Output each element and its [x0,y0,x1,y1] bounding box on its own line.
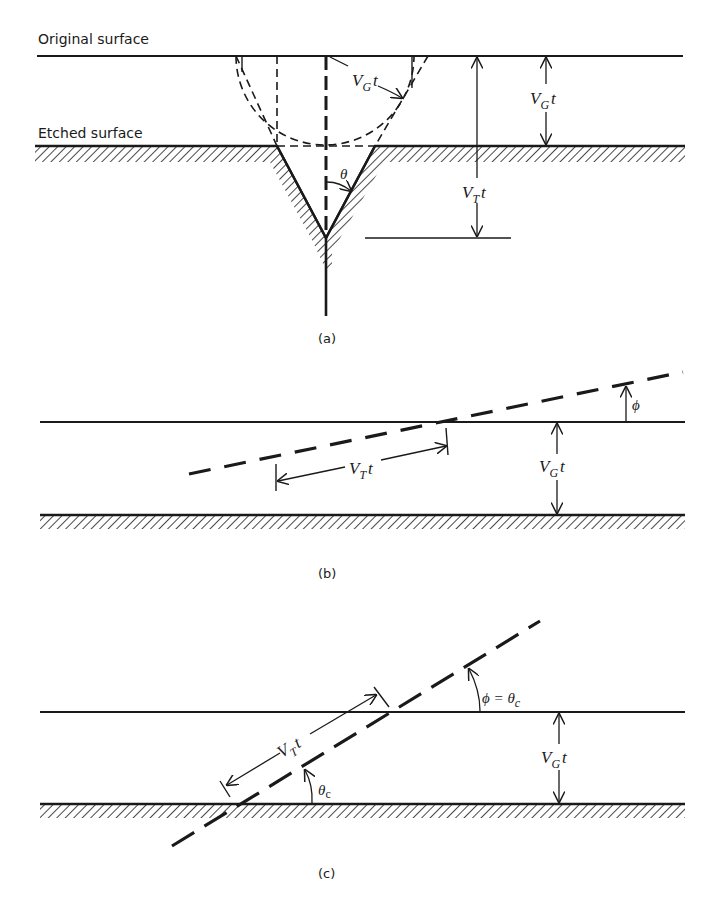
etch-track-diagram: Original surface Etched surface VGt θ VT… [0,0,724,915]
caption-c: (c) [318,866,335,881]
vt-dim-label-c: VTt [274,732,307,765]
vg-dim-label-a: VGt [530,89,557,112]
vg-arc-label: VGt [352,71,379,94]
vg-dim-label-b: VGt [539,457,566,480]
vt-end-tick-right-c [374,687,389,707]
phi-label-b: ϕ [632,397,640,413]
vt-dim-left-c [227,753,280,785]
vg-dim-label-c: VGt [541,748,568,771]
vg-arc-arrow [378,86,402,98]
theta-c-arc [305,770,312,803]
panel-a: Original surface Etched surface VGt θ VT… [35,31,685,346]
panel-c: VTt θc ϕ = θc VGt (c) [40,621,685,881]
construction-line-right-slant [375,56,428,146]
theta-c-label: θc [318,782,331,801]
vt-dim-label-b: VTt [349,459,374,482]
vt-end-tick-right-b [446,428,448,455]
panel-b: VTt VGt ϕ (b) [40,372,685,581]
original-surface-label: Original surface [38,31,149,47]
vt-dim-left-b [278,467,345,481]
etched-surface-label: Etched surface [38,125,143,141]
caption-b: (b) [318,566,336,581]
phi-eq-label: ϕ = θc [482,690,521,710]
vt-dim-right-b [381,446,446,460]
phi-c-arc [469,669,480,711]
caption-a: (a) [318,331,336,346]
substrate-hatch-b [40,515,685,529]
vt-dim-label-a: VTt [462,183,487,206]
substrate-hatch-c [40,804,685,818]
vg-arc-leader [330,57,348,66]
vt-dim-right-c [310,695,376,734]
theta-label: θ [340,166,348,182]
